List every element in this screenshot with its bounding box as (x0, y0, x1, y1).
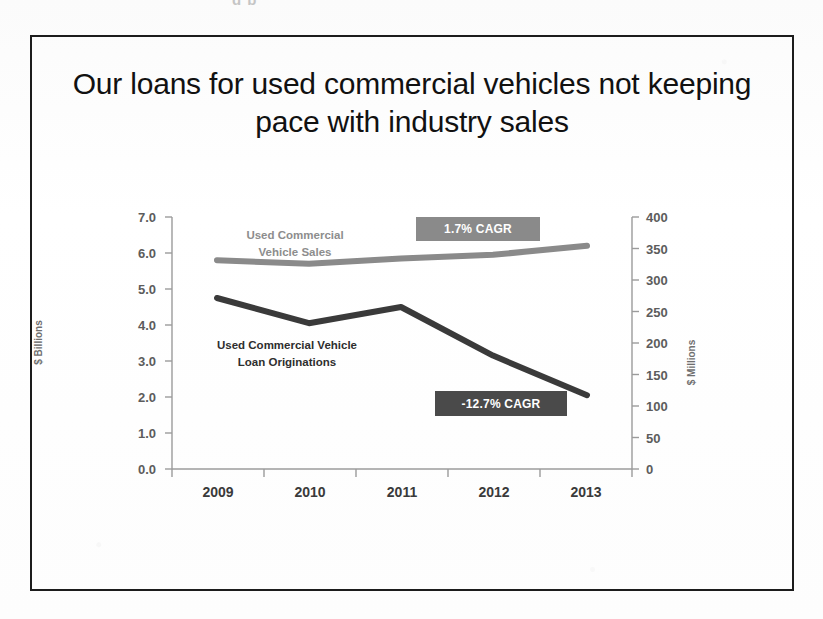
left-axis-tick-label: 4.0 (120, 318, 156, 333)
x-axis-tick-label-2011: 2011 (367, 484, 437, 500)
left-axis-tick-label: 1.0 (120, 426, 156, 441)
x-axis-ticks (172, 469, 632, 477)
left-axis-tick-label: 3.0 (120, 354, 156, 369)
left-axis-ticks (165, 217, 172, 469)
cagr-badge-sales: 1.7% CAGR (416, 217, 540, 241)
right-axis-tick-label: 100 (646, 399, 682, 414)
right-axis-title: $ Millions (686, 340, 697, 386)
right-axis-ticks (632, 217, 639, 469)
slide-frame: Our loans for used commercial vehicles n… (30, 35, 794, 591)
left-axis-tick-label: 2.0 (120, 390, 156, 405)
series-label-used-commercial-vehicle-loan-originations: Used Commercial Vehicle Loan Origination… (182, 337, 392, 370)
x-axis-tick-label-2012: 2012 (459, 484, 529, 500)
right-axis-tick-label: 250 (646, 305, 682, 320)
x-axis-tick-label-2013: 2013 (551, 484, 621, 500)
right-axis-tick-label: 50 (646, 431, 682, 446)
x-axis-tick-label-2010: 2010 (275, 484, 345, 500)
left-axis-tick-label: 7.0 (120, 210, 156, 225)
right-axis-tick-label: 0 (646, 462, 682, 477)
cagr-badge-loan-originations: -12.7% CAGR (435, 391, 567, 416)
right-axis-tick-label: 300 (646, 273, 682, 288)
line-chart: 7.0 6.0 5.0 4.0 3.0 2.0 1.0 0.0 400 350 … (32, 37, 796, 593)
left-axis-tick-label: 5.0 (120, 282, 156, 297)
series-label-used-commercial-vehicle-sales: Used Commercial Vehicle Sales (220, 227, 370, 260)
left-axis-tick-label: 0.0 (120, 462, 156, 477)
right-axis-tick-label: 400 (646, 210, 682, 225)
left-axis-tick-label: 6.0 (120, 246, 156, 261)
x-axis-tick-label-2009: 2009 (183, 484, 253, 500)
right-axis-tick-label: 350 (646, 242, 682, 257)
top-bleed-text-fragment: g p (232, 0, 352, 5)
left-axis-title: $ Billions (33, 320, 44, 364)
right-axis-tick-label: 200 (646, 336, 682, 351)
right-axis-tick-label: 150 (646, 368, 682, 383)
